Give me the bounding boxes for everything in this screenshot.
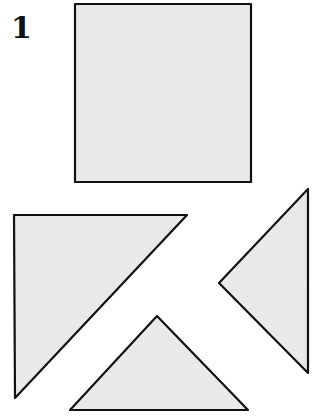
bottom-triangle-piece [70, 316, 248, 410]
tangram-pieces-diagram [0, 0, 327, 418]
square-piece [75, 4, 251, 182]
right-triangle-piece [219, 189, 308, 373]
